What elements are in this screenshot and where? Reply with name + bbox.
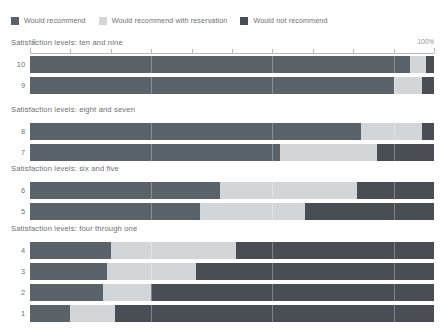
bar-row-label: 4 [8,242,25,259]
legend-item[interactable]: Would not recommend [240,16,327,25]
x-axis-tick [394,49,395,53]
stacked-bar[interactable] [30,123,434,140]
panel-title: Satisfaction levels: four through one [11,224,137,233]
stacked-bar[interactable] [30,182,434,199]
bar-segment[interactable] [30,284,103,301]
bar-row: 8 [0,123,447,140]
bar-row: 2 [0,284,447,301]
x-axis-tick [151,49,152,53]
bar-segment[interactable] [30,263,107,280]
bar-segment[interactable] [236,242,434,259]
bar-segment[interactable] [357,182,434,199]
bar-row-label: 8 [8,123,25,140]
x-axis-tick [70,49,71,53]
chart-legend: Would recommendWould recommend with rese… [11,14,341,27]
bar-segment[interactable] [377,144,434,161]
legend-swatch-icon [240,17,248,25]
bar-segment[interactable] [305,203,434,220]
bar-row: 4 [0,242,447,259]
bar-row-label: 2 [8,284,25,301]
bar-segment[interactable] [30,123,361,140]
bar-segment[interactable] [30,203,200,220]
x-axis-tick [111,49,112,53]
bar-segment[interactable] [200,203,305,220]
stacked-bar[interactable] [30,203,434,220]
bar-segment[interactable] [361,123,422,140]
bar-row: 10 [0,56,447,73]
stacked-bar[interactable] [30,77,434,94]
bar-segment[interactable] [151,284,434,301]
bar-segment[interactable] [103,284,151,301]
bar-segment[interactable] [394,77,422,94]
bar-row-label: 9 [8,77,25,94]
bar-row-label: 6 [8,182,25,199]
bar-segment[interactable] [410,56,426,73]
stacked-bar[interactable] [30,242,434,259]
bar-segment[interactable] [107,263,196,280]
bar-segment[interactable] [70,305,114,322]
bar-segment[interactable] [30,77,394,94]
legend-swatch-icon [11,17,19,25]
x-axis-tick [192,49,193,53]
panel-title: Satisfaction levels: six and five [11,164,119,173]
x-axis-tick [232,49,233,53]
legend-item-label: Would recommend [24,16,86,25]
bar-row: 3 [0,263,447,280]
bar-segment[interactable] [30,182,220,199]
bar-segment[interactable] [220,182,357,199]
bar-segment[interactable] [111,242,236,259]
bar-row-label: 10 [8,56,25,73]
stacked-bar[interactable] [30,305,434,322]
x-axis-tick [30,48,31,53]
bar-row: 6 [0,182,447,199]
x-axis-tick [434,48,435,53]
x-axis-max-label: 100% [418,38,434,45]
bar-segment[interactable] [30,56,410,73]
x-axis-min-label: 0 [32,38,36,45]
x-axis-tick [353,49,354,53]
bar-row: 9 [0,77,447,94]
bar-segment[interactable] [30,305,70,322]
bar-segment[interactable] [422,123,434,140]
bar-segment[interactable] [196,263,434,280]
x-axis-line [30,53,434,54]
legend-item-label: Would recommend with reservation [112,16,228,25]
bar-row-label: 5 [8,203,25,220]
stacked-bar[interactable] [30,56,434,73]
bar-row: 7 [0,144,447,161]
bar-row-label: 1 [8,305,25,322]
panel-title: Satisfaction levels: eight and seven [11,105,135,114]
bar-segment[interactable] [422,77,434,94]
x-axis-tick [272,49,273,53]
bar-segment[interactable] [426,56,434,73]
bar-row-label: 7 [8,144,25,161]
legend-item[interactable]: Would recommend with reservation [99,16,228,25]
stacked-bar[interactable] [30,144,434,161]
bar-row: 5 [0,203,447,220]
bar-row-label: 3 [8,263,25,280]
x-axis-tick [313,49,314,53]
stacked-bar[interactable] [30,263,434,280]
bar-row: 1 [0,305,447,322]
bar-segment[interactable] [280,144,377,161]
stacked-bar[interactable] [30,284,434,301]
bar-segment[interactable] [115,305,434,322]
bar-segment[interactable] [30,144,280,161]
panel-title: Satisfaction levels: ten and nine [11,38,123,47]
bar-segment[interactable] [30,242,111,259]
legend-item[interactable]: Would recommend [11,16,86,25]
legend-item-label: Would not recommend [253,16,327,25]
legend-swatch-icon [99,17,107,25]
